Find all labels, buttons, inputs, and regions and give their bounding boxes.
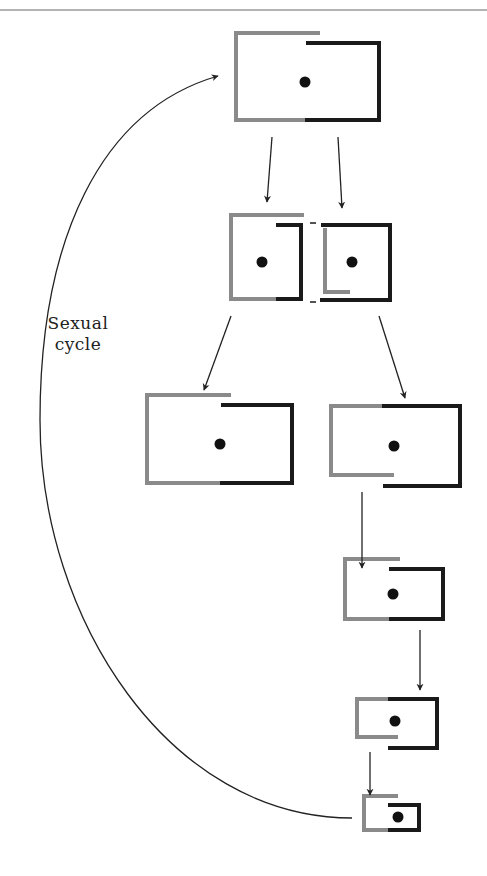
label-line-2: cycle [28,334,128,355]
arrow-down-icon [204,316,231,390]
nucleus [215,439,226,450]
label-line-1: Sexual [28,313,128,334]
nucleus [257,257,268,268]
sexual-cycle-label: Sexual cycle [28,313,128,355]
cell-cycle-diagram [0,0,487,876]
nucleus [393,812,404,823]
nucleus [388,589,399,600]
nucleus [300,77,311,88]
sexual-cycle-arrow-icon [40,76,352,818]
nucleus [390,716,401,727]
arrow-down-icon [338,137,342,208]
arrow-down-icon [379,316,405,398]
cell-1 [236,33,379,120]
nucleus [389,441,400,452]
cell-6 [364,796,419,830]
arrow-down-icon [267,137,272,202]
cell-2a [231,215,304,299]
nucleus [347,257,358,268]
